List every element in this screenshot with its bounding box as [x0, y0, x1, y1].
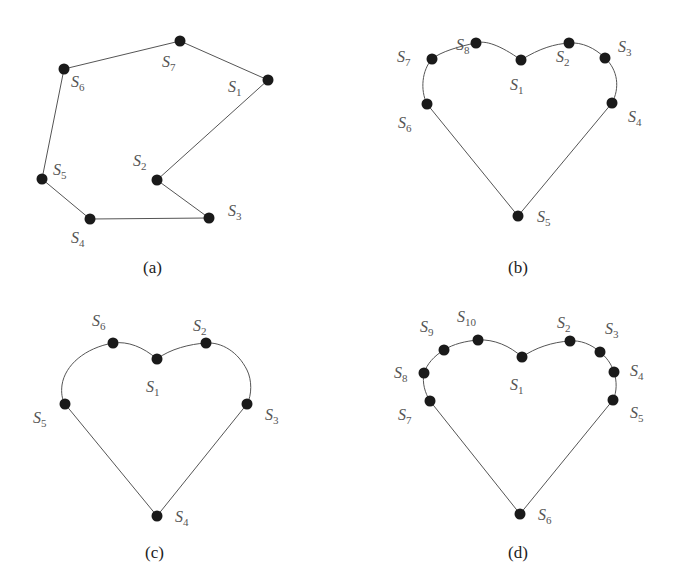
node-s7: [175, 36, 186, 47]
node-s2: [201, 338, 212, 349]
node-label-s8: S8: [456, 36, 470, 56]
panel-d: S1S2S3S4S5S6S7S8S9S10 (d): [394, 308, 644, 562]
node-label-s6: S6: [71, 73, 85, 93]
node-label-s1: S1: [228, 78, 242, 98]
panel-b-heart-outline: [423, 42, 617, 216]
node-label-s3: S3: [265, 406, 279, 426]
node-s4: [609, 367, 620, 378]
node-s4: [85, 214, 96, 225]
node-s3: [204, 213, 215, 224]
panel-c: S1S2S3S4S5S6 (c): [33, 312, 279, 562]
node-s3: [600, 53, 611, 64]
node-label-s3: S3: [605, 320, 619, 340]
node-s6: [515, 509, 526, 520]
node-s4: [152, 511, 163, 522]
node-label-s7: S7: [398, 406, 412, 426]
node-s1: [152, 354, 163, 365]
node-s5: [60, 399, 71, 410]
node-label-s3: S3: [228, 202, 242, 222]
node-s2: [564, 38, 575, 49]
node-s3: [595, 347, 606, 358]
panel-b: S1S2S3S4S5S6S7S8 (b): [397, 36, 642, 277]
figure-canvas: S1S2S3S4S5S6S7 (a) S1S2S3S4S5S6S7S8 (b) …: [0, 0, 675, 585]
node-s1: [263, 75, 274, 86]
node-s6: [422, 99, 433, 110]
node-s2: [152, 175, 163, 186]
node-s3: [242, 399, 253, 410]
panel-c-caption: (c): [145, 543, 164, 562]
node-s8: [471, 38, 482, 49]
node-s10: [473, 335, 484, 346]
node-label-s1: S1: [510, 76, 524, 96]
node-s4: [607, 98, 618, 109]
node-label-s4: S4: [630, 362, 644, 382]
panel-c-heart-outline: [62, 343, 251, 516]
node-s9: [439, 345, 450, 356]
node-label-s1: S1: [510, 376, 524, 396]
node-label-s6: S6: [538, 506, 552, 526]
node-label-s5: S5: [630, 404, 644, 424]
node-label-s5: S5: [53, 161, 67, 181]
node-label-s8: S8: [394, 364, 408, 384]
node-s7: [427, 54, 438, 65]
node-label-s4: S4: [175, 508, 189, 528]
node-s6: [108, 338, 119, 349]
node-s8: [419, 368, 430, 379]
node-label-s2: S2: [133, 152, 147, 172]
node-label-s2: S2: [556, 48, 570, 68]
node-label-s3: S3: [618, 38, 632, 58]
node-label-s9: S9: [420, 318, 434, 338]
node-label-s4: S4: [71, 229, 85, 249]
node-s5: [37, 174, 48, 185]
node-label-s6: S6: [92, 312, 106, 332]
node-label-s2: S2: [193, 317, 207, 337]
node-s5: [513, 211, 524, 222]
node-s1: [516, 55, 527, 66]
node-label-s7: S7: [162, 53, 176, 73]
panel-a-polygon-edges: [42, 41, 268, 219]
node-label-s5: S5: [33, 409, 47, 429]
node-label-s7: S7: [397, 48, 411, 68]
node-s5: [608, 395, 619, 406]
node-label-s10: S10: [457, 308, 477, 328]
panel-d-heart-outline: [423, 340, 616, 514]
node-s7: [425, 396, 436, 407]
node-label-s2: S2: [557, 314, 571, 334]
panel-d-caption: (d): [508, 543, 528, 562]
node-label-s1: S1: [146, 378, 160, 398]
panel-a-caption: (a): [143, 258, 162, 277]
panel-a: S1S2S3S4S5S6S7 (a): [37, 36, 274, 278]
node-s2: [565, 336, 576, 347]
panel-b-caption: (b): [508, 258, 528, 277]
node-label-s4: S4: [628, 108, 642, 128]
node-s6: [59, 64, 70, 75]
node-s1: [517, 352, 528, 363]
node-label-s6: S6: [398, 114, 412, 134]
node-label-s5: S5: [537, 208, 551, 228]
